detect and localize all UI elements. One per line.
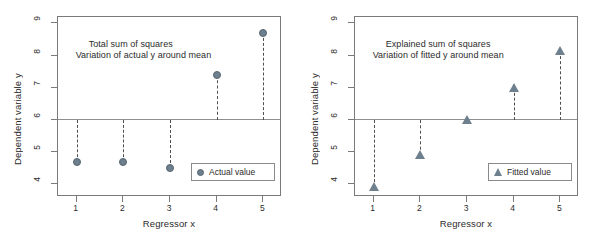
deviation-stem-x2 (123, 120, 124, 162)
y-tick-7 (51, 87, 57, 88)
x-tick-3 (466, 196, 467, 202)
panel-explained-sum-of-squares: Dependent variable y Regressor x 4567891… (297, 0, 594, 238)
x-tick-label-5: 5 (254, 203, 270, 213)
y-tick-label-8: 8 (329, 49, 345, 54)
y-tick-label-6: 6 (329, 113, 345, 118)
data-point-x3-y6 (462, 115, 472, 124)
y-tick-label-7: 7 (32, 81, 48, 86)
legend-right[interactable]: Fitted value (488, 163, 572, 181)
deviation-stem-x4 (217, 75, 218, 120)
x-tick-label-3: 3 (161, 203, 177, 213)
x-tick-3 (169, 196, 170, 202)
y-tick-label-9: 9 (32, 16, 48, 21)
y-tick-8 (51, 55, 57, 56)
x-tick-label-2: 2 (411, 203, 427, 213)
y-tick-7 (348, 87, 354, 88)
y-tick-4 (348, 183, 354, 184)
data-point-x2-y4.9 (415, 150, 425, 159)
y-tick-6 (348, 119, 354, 120)
x-tick-1 (373, 196, 374, 202)
data-point-x3-y4.5 (166, 164, 174, 172)
x-tick-label-1: 1 (365, 203, 381, 213)
deviation-stem-x4 (514, 88, 515, 120)
y-tick-9 (348, 22, 354, 23)
deviation-stem-x5 (560, 51, 561, 120)
x-tick-4 (216, 196, 217, 202)
legend-label-actual-value: Actual value (209, 167, 255, 177)
y-tick-label-7: 7 (329, 81, 345, 86)
annotation-left-line-1: Total sum of squares (89, 39, 173, 49)
y-tick-6 (51, 119, 57, 120)
deviation-stem-x1 (77, 120, 78, 162)
x-tick-label-2: 2 (114, 203, 130, 213)
x-tick-label-4: 4 (208, 203, 224, 213)
y-tick-5 (51, 151, 57, 152)
y-tick-label-6: 6 (32, 113, 48, 118)
y-tick-label-9: 9 (329, 16, 345, 21)
data-point-x2-y4.7 (119, 158, 127, 166)
y-axis-label-left: Dependent variable y (6, 0, 28, 238)
regression-sum-of-squares-figure: Dependent variable y Regressor x 4567891… (0, 0, 594, 238)
deviation-stem-x5 (263, 33, 264, 120)
x-tick-label-1: 1 (68, 203, 84, 213)
x-tick-5 (262, 196, 263, 202)
annotation-right-line-1: Explained sum of squares (386, 39, 491, 49)
y-tick-8 (348, 55, 354, 56)
x-tick-4 (513, 196, 514, 202)
triangle-marker-icon (494, 168, 502, 176)
x-tick-2 (122, 196, 123, 202)
deviation-stem-x3 (170, 120, 171, 168)
data-point-x5-y8.15 (555, 46, 565, 55)
data-point-x4-y7.4 (213, 71, 221, 79)
x-tick-label-3: 3 (458, 203, 474, 213)
x-tick-label-5: 5 (551, 203, 567, 213)
legend-label-fitted-value: Fitted value (507, 167, 551, 177)
panel-total-sum-of-squares: Dependent variable y Regressor x 4567891… (0, 0, 297, 238)
y-axis-label-right: Dependent variable y (303, 0, 325, 238)
y-tick-4 (51, 183, 57, 184)
data-point-x5-y8.7 (259, 29, 267, 37)
y-tick-9 (51, 22, 57, 23)
data-point-x1-y3.9 (369, 182, 379, 191)
x-tick-5 (559, 196, 560, 202)
x-axis-label-left: Regressor x (57, 218, 281, 229)
data-point-x1-y4.7 (73, 158, 81, 166)
y-tick-label-4: 4 (329, 177, 345, 182)
y-tick-label-8: 8 (32, 49, 48, 54)
annotation-left-line-2: Variation of actual y around mean (76, 50, 212, 60)
legend-left[interactable]: Actual value (191, 163, 275, 181)
x-axis-label-right: Regressor x (354, 218, 578, 229)
circle-marker-icon (197, 169, 204, 176)
y-tick-label-4: 4 (32, 177, 48, 182)
x-tick-label-4: 4 (505, 203, 521, 213)
y-tick-label-5: 5 (32, 145, 48, 150)
annotation-right-line-2: Variation of fitted y around mean (373, 50, 504, 60)
data-point-x4-y7 (509, 83, 519, 92)
x-tick-2 (419, 196, 420, 202)
x-tick-1 (76, 196, 77, 202)
deviation-stem-x1 (374, 120, 375, 188)
y-tick-5 (348, 151, 354, 152)
y-tick-label-5: 5 (329, 145, 345, 150)
mean-reference-line (58, 119, 280, 120)
